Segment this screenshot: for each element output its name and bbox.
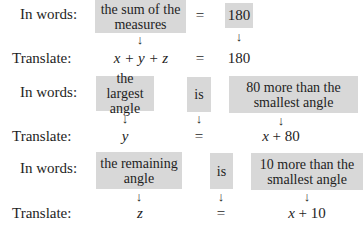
verb-box: is — [187, 77, 211, 112]
lhs-math: y — [118, 128, 132, 145]
equals-sign: = — [192, 128, 206, 145]
rhs-math: x + 10 — [278, 205, 336, 222]
in-words-label: In words: — [20, 84, 77, 101]
translate-label: Translate: — [12, 205, 71, 222]
in-words-label: In words: — [20, 160, 77, 177]
rhs-math: 180 — [225, 50, 253, 67]
phrase-box: the sum of the measures — [95, 0, 186, 33]
phrase-box: the remaining angle — [96, 152, 182, 189]
equals-sign: = — [193, 7, 207, 24]
down-arrow-icon: ↓ — [133, 33, 147, 46]
down-arrow-icon: ↓ — [132, 190, 146, 203]
down-arrow-icon: ↓ — [118, 112, 132, 125]
translate-label: Translate: — [12, 128, 71, 145]
rhs-phrase-box: 10 more than the smallest angle — [251, 153, 363, 190]
down-arrow-icon: ↓ — [232, 30, 246, 43]
rhs-math: x + 80 — [252, 128, 310, 145]
down-arrow-icon: ↓ — [274, 114, 288, 127]
lhs-math: z — [133, 205, 147, 222]
lhs-math: x + y + z — [105, 50, 177, 67]
down-arrow-icon: ↓ — [192, 112, 206, 125]
rhs-phrase-box: 80 more than the smallest angle — [229, 76, 358, 113]
down-arrow-icon: ↓ — [214, 190, 228, 203]
equals-sign: = — [193, 50, 207, 67]
in-words-label: In words: — [20, 6, 77, 23]
verb-box: is — [210, 153, 233, 189]
phrase-box: the largest angle — [96, 76, 154, 111]
value-box: 180 — [225, 3, 253, 28]
translate-label: Translate: — [12, 50, 71, 67]
equals-sign: = — [214, 205, 228, 222]
down-arrow-icon: ↓ — [300, 190, 314, 203]
